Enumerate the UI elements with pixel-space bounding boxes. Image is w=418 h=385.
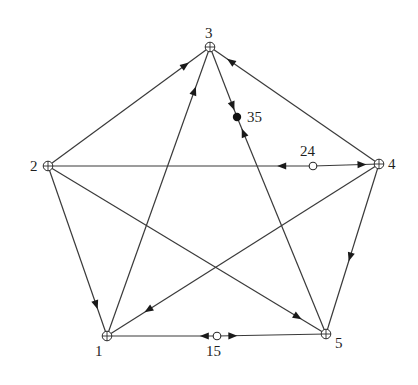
edge-2-to-5: [48, 166, 326, 334]
labels-layer: 35241512345: [30, 25, 396, 359]
edge-2-to-1: [48, 166, 107, 336]
node-label-5: 5: [335, 335, 343, 351]
midpoint-24: [309, 162, 317, 170]
edge-24-to-4: [313, 164, 379, 166]
midpoint-label-15: 15: [206, 343, 221, 359]
directed-graph-diagram: 35241512345: [0, 0, 418, 385]
edge-4-to-3: [210, 47, 379, 164]
arrowhead-icon: [357, 161, 366, 168]
midpoint-label-35: 35: [247, 109, 262, 125]
node-3: [205, 42, 215, 52]
arrowhead-icon: [142, 304, 153, 315]
node-2: [43, 161, 53, 171]
node-label-2: 2: [30, 158, 38, 174]
node-label-1: 1: [95, 343, 103, 359]
nodes-layer: [43, 42, 384, 341]
arrowhead-icon: [292, 312, 303, 323]
arrowhead-icon: [238, 127, 248, 138]
arrowhead-icon: [200, 332, 209, 339]
node-4: [374, 159, 384, 169]
edges-layer: [48, 47, 379, 336]
arrowhead-icon: [180, 60, 192, 71]
arrowhead-icon: [228, 101, 238, 112]
arrowhead-icon: [225, 56, 236, 67]
node-5: [321, 329, 331, 339]
arrowhead-icon: [345, 252, 355, 263]
node-label-4: 4: [388, 156, 396, 172]
midpoint-label-24: 24: [300, 143, 316, 159]
edge-4-to-5: [326, 164, 379, 334]
arrowhead-icon: [277, 162, 286, 169]
node-label-3: 3: [205, 25, 213, 41]
arrowhead-icon: [91, 299, 101, 310]
midpoint-15: [213, 332, 221, 340]
arrowhead-icon: [228, 332, 237, 339]
node-1: [102, 331, 112, 341]
arrowhead-icon: [189, 85, 199, 96]
midpoint-35: [233, 113, 241, 121]
